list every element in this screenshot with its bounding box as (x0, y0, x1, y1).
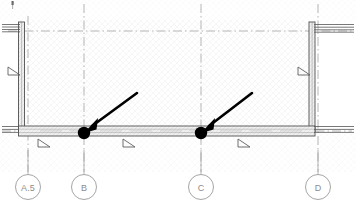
wall-right (309, 22, 315, 132)
grid-bubble-b-label: B (81, 183, 87, 193)
node-dot-c (195, 127, 207, 139)
interior-hatch-field (20, 20, 315, 132)
wall-bottom (19, 126, 316, 136)
grid-bubble-d-label: D (315, 183, 322, 193)
upper-hatch-field (0, 0, 356, 22)
floor-plan-svg: A.5 B C D (0, 0, 356, 205)
grid-bubble-c-label: C (198, 183, 205, 193)
grid-bubble-a5-label: A.5 (21, 183, 35, 193)
wall-left (19, 22, 25, 132)
lower-hatch-field (0, 132, 356, 172)
node-dot-b (78, 127, 90, 139)
architectural-drawing-canvas: A.5 B C D (0, 0, 356, 205)
